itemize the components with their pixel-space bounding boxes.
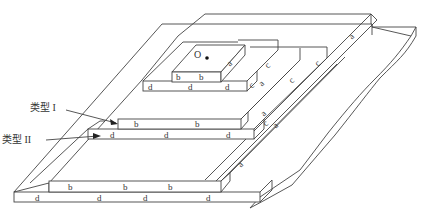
svg-text:c: c (246, 80, 256, 90)
arrowhead-icon (110, 119, 118, 125)
origin-label: O (194, 49, 201, 60)
svg-text:d: d (110, 130, 115, 140)
svg-text:d: d (143, 193, 148, 203)
svg-text:a: a (235, 159, 245, 169)
svg-text:c: c (262, 60, 272, 70)
outer-frame (14, 14, 377, 192)
svg-text:d: d (35, 193, 40, 203)
svg-text:d: d (188, 82, 193, 92)
callout-label-type-2: 类型 II (2, 133, 31, 145)
stepped-structure-diagram: O b b a d d d c a c b b a c a c d d d c … (0, 0, 421, 222)
svg-text:b: b (176, 72, 181, 82)
svg-text:d: d (206, 193, 211, 203)
svg-text:b: b (123, 182, 128, 192)
svg-text:a: a (256, 78, 266, 88)
top-block (172, 45, 245, 82)
svg-text:d: d (164, 130, 169, 140)
svg-text:d: d (148, 82, 153, 92)
svg-text:c: c (286, 75, 296, 85)
svg-text:b: b (168, 182, 173, 192)
outer-slab (250, 27, 416, 208)
callout-label-type-1: 类型 I (30, 101, 56, 113)
svg-text:b: b (68, 182, 73, 192)
svg-text:c: c (312, 58, 322, 68)
origin-point (205, 56, 209, 60)
svg-text:d: d (97, 193, 102, 203)
svg-text:a: a (346, 31, 356, 41)
svg-text:b: b (199, 72, 204, 82)
svg-text:d: d (226, 130, 231, 140)
svg-text:d: d (225, 82, 230, 92)
svg-text:b: b (134, 119, 139, 129)
svg-text:a: a (258, 108, 268, 118)
svg-text:b: b (195, 119, 200, 129)
callout-type-2: 类型 II (2, 133, 101, 145)
